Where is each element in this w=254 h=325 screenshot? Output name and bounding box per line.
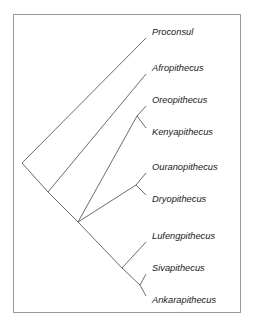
taxon-label-proconsul: Proconsul xyxy=(152,27,194,37)
taxon-label-ouranopithecus: Ouranopithecus xyxy=(152,162,218,172)
taxon-label-dryopithecus: Dryopithecus xyxy=(152,194,207,204)
taxon-label-afropithecus: Afropithecus xyxy=(151,63,204,73)
taxon-label-sivapithecus: Sivapithecus xyxy=(152,263,205,273)
cladogram-canvas: ProconsulAfropithecusOreopithecusKenyapi… xyxy=(0,0,254,325)
taxon-label-kenyapithecus: Kenyapithecus xyxy=(152,127,213,137)
taxon-label-lufengpithecus: Lufengpithecus xyxy=(152,231,215,241)
taxon-label-oreopithecus: Oreopithecus xyxy=(152,95,208,105)
cladogram-figure: ProconsulAfropithecusOreopithecusKenyapi… xyxy=(0,0,254,325)
taxon-label-ankarapithecus: Ankarapithecus xyxy=(151,295,216,305)
